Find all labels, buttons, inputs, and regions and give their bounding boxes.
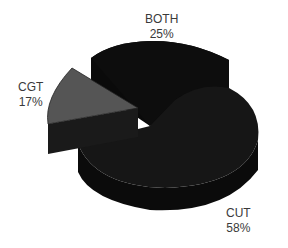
label-cgt-name: CGT — [18, 80, 43, 95]
label-both: BOTH 25% — [145, 12, 178, 42]
label-both-name: BOTH — [145, 12, 178, 27]
label-cut-name: CUT — [226, 206, 251, 221]
label-both-pct: 25% — [145, 27, 178, 42]
label-cgt-pct: 17% — [18, 95, 43, 110]
label-cut-pct: 58% — [226, 221, 251, 236]
label-cgt: CGT 17% — [18, 80, 43, 110]
label-cut: CUT 58% — [226, 206, 251, 236]
